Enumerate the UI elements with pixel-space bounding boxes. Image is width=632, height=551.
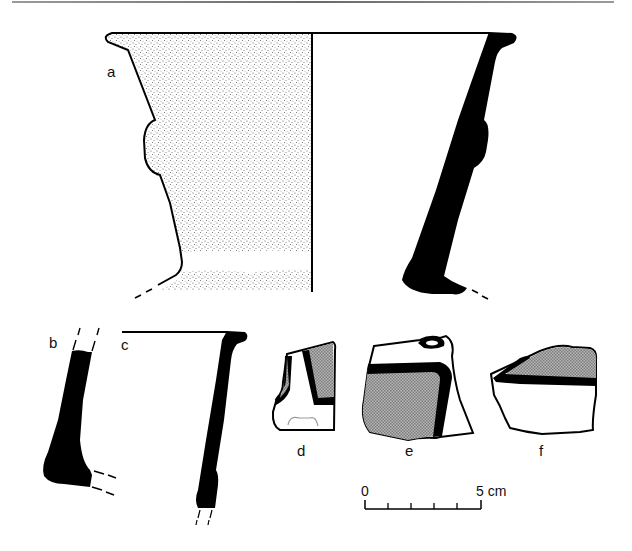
fragment-c-profile — [122, 331, 248, 525]
vessel-a-section-profile — [312, 32, 517, 299]
scale-start-label: 0 — [361, 484, 369, 498]
sherd-d — [273, 342, 335, 430]
label-d: d — [297, 443, 305, 458]
label-f: f — [539, 443, 543, 458]
drawing-plate — [0, 0, 632, 551]
sherd-e — [363, 336, 473, 440]
label-c: c — [121, 337, 129, 352]
label-e: e — [405, 443, 413, 458]
scale-bar — [365, 500, 481, 509]
label-b: b — [49, 335, 57, 350]
label-a: a — [107, 64, 115, 79]
fragment-b-profile — [43, 328, 116, 495]
vessel-a-exterior-stippled — [106, 33, 312, 298]
scale-end-label: 5 cm — [476, 484, 506, 498]
sherd-f — [491, 346, 596, 434]
